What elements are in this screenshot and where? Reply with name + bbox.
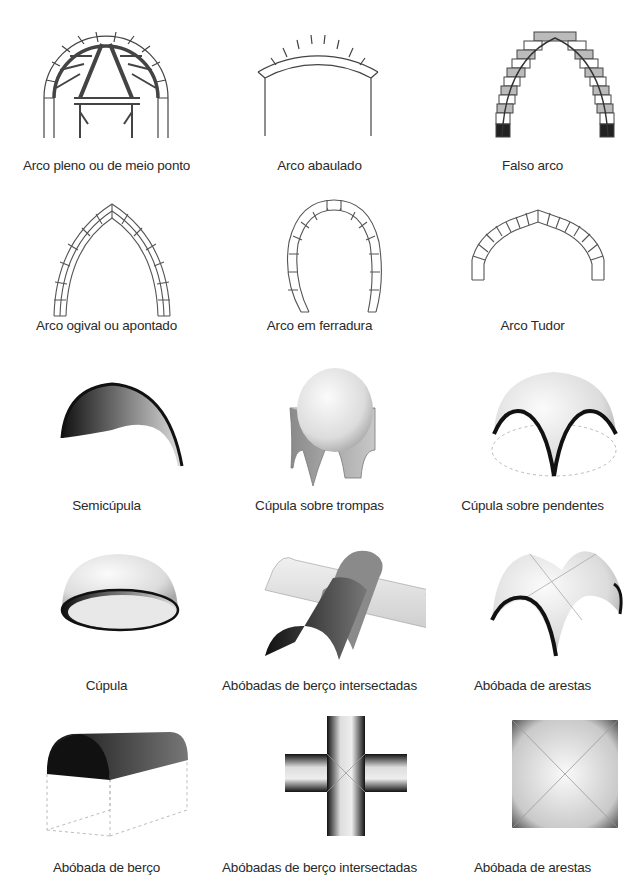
- figure-label: Falso arco: [426, 158, 639, 173]
- semidome-icon: [0, 350, 213, 490]
- figure-label: Abóbada de berço: [0, 860, 213, 875]
- figure-cell: Arco pleno ou de meio ponto: [0, 0, 213, 190]
- figure-label: Arco em ferradura: [213, 318, 426, 333]
- figure-label: Cúpula: [0, 678, 213, 693]
- dome-on-squinches-icon: [213, 350, 426, 490]
- figure-cell: Arco abaulado: [213, 0, 426, 190]
- segmental-arch-icon: [213, 0, 426, 150]
- figure-cell: Arco ogival ou apontado: [0, 190, 213, 350]
- semicircular-arch-with-centering-icon: [0, 0, 213, 150]
- figure-label: Cúpula sobre trompas: [213, 498, 426, 513]
- figure-label: Abóbadas de berço intersectadas: [213, 860, 426, 875]
- figure-label: Semicúpula: [0, 498, 213, 513]
- horseshoe-arch-icon: [213, 190, 426, 320]
- figure-cell: Abóbadas de berço intersectadas: [213, 530, 426, 710]
- figure-cell: Abóbadas de berço intersectadas: [213, 710, 426, 894]
- figure-label: Abóbadas de berço intersectadas: [213, 678, 426, 693]
- figure-cell: Semicúpula: [0, 350, 213, 530]
- figure-label: Arco Tudor: [426, 318, 639, 333]
- figure-label: Arco abaulado: [213, 158, 426, 173]
- groin-vault-icon: [426, 530, 639, 670]
- figure-cell: Cúpula: [0, 530, 213, 710]
- corbel-arch-icon: [426, 0, 639, 150]
- figure-cell: Arco em ferradura: [213, 190, 426, 350]
- figure-cell: Abóbada de arestas: [426, 530, 639, 710]
- tudor-arch-icon: [426, 190, 639, 320]
- figure-label: Abóbada de arestas: [426, 860, 639, 875]
- figure-cell: Abóbada de berço: [0, 710, 213, 894]
- dome-icon: [0, 530, 213, 670]
- figure-cell: Abóbada de arestas: [426, 710, 639, 894]
- pointed-arch-icon: [0, 190, 213, 320]
- figure-label: Arco pleno ou de meio ponto: [0, 158, 213, 173]
- figure-cell: Falso arco: [426, 0, 639, 190]
- dome-on-pendentives-icon: [426, 350, 639, 490]
- intersecting-barrel-vaults-plan-icon: [213, 710, 426, 850]
- figure-label: Cúpula sobre pendentes: [426, 498, 639, 513]
- figure-label: Arco ogival ou apontado: [0, 318, 213, 333]
- figure-label: Abóbada de arestas: [426, 678, 639, 693]
- intersecting-barrel-vaults-icon: [213, 530, 426, 670]
- figure-cell: Arco Tudor: [426, 190, 639, 350]
- figure-cell: Cúpula sobre pendentes: [426, 350, 639, 530]
- barrel-vault-icon: [0, 710, 213, 850]
- figure-cell: Cúpula sobre trompas: [213, 350, 426, 530]
- groin-vault-plan-icon: [426, 710, 639, 850]
